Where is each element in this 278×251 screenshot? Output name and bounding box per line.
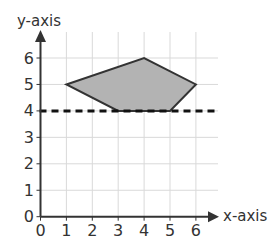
y-tick-label: 1 [24,181,34,200]
y-axis-arrow-icon [35,30,46,42]
polygon-shape [66,58,196,111]
y-tick-label: 0 [24,207,34,226]
x-tick-label: 5 [165,221,175,240]
x-tick-label: 4 [139,221,149,240]
x-axis-label: x-axis [223,207,268,225]
x-axis-arrow-icon [208,211,219,222]
x-tick-label: 2 [87,221,97,240]
y-axis-label: y-axis [17,12,61,30]
y-tick-label: 3 [24,128,34,147]
x-tick-label: 3 [113,221,123,240]
y-tick-label: 6 [24,49,34,68]
y-tick-label: 4 [24,101,34,120]
coordinate-plane: y-axis x-axis 01234560123456 [0,0,278,251]
y-tick-label: 2 [24,154,34,173]
x-tick-label: 1 [61,221,71,240]
pentagon [66,58,196,111]
x-tick-label: 0 [35,221,45,240]
y-tick-label: 5 [24,75,34,94]
axes: y-axis x-axis [17,12,268,225]
grid-lines [41,32,219,217]
x-tick-label: 6 [191,221,201,240]
